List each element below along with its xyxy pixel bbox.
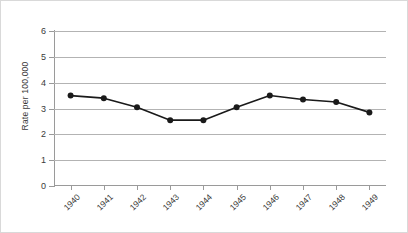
x-tick-label: 1944 bbox=[194, 192, 214, 212]
x-tick-mark bbox=[303, 186, 304, 190]
x-tick-mark bbox=[270, 186, 271, 190]
data-point bbox=[366, 109, 372, 115]
x-tick-label: 1945 bbox=[227, 192, 247, 212]
data-point bbox=[267, 93, 273, 99]
x-tick-label: 1946 bbox=[260, 192, 280, 212]
data-point bbox=[101, 95, 107, 101]
x-tick-mark bbox=[71, 186, 72, 190]
y-axis-title-text: Rate per 100,000 bbox=[20, 62, 30, 131]
data-point bbox=[200, 117, 206, 123]
x-tick-mark bbox=[336, 186, 337, 190]
x-tick-label: 1948 bbox=[327, 192, 347, 212]
x-tick-label: 1949 bbox=[360, 192, 380, 212]
x-tick-label: 1943 bbox=[161, 192, 181, 212]
y-tick-label: 3 bbox=[41, 104, 46, 114]
data-series bbox=[54, 31, 386, 186]
x-tick-label: 1941 bbox=[94, 192, 114, 212]
x-tick-mark bbox=[203, 186, 204, 190]
data-point bbox=[234, 104, 240, 110]
y-tick-label: 5 bbox=[41, 52, 46, 62]
series-line bbox=[71, 96, 370, 121]
line-chart-figure: Rate per 100,000 0123456 194019411942194… bbox=[0, 0, 408, 233]
y-tick-label: 6 bbox=[41, 26, 46, 36]
plot-area: 0123456 19401941194219431944194519461947… bbox=[54, 31, 386, 186]
y-tick-label: 1 bbox=[41, 155, 46, 165]
x-tick-mark bbox=[137, 186, 138, 190]
data-point bbox=[167, 117, 173, 123]
data-point bbox=[134, 104, 140, 110]
x-tick-label: 1942 bbox=[128, 192, 148, 212]
x-tick-mark bbox=[170, 186, 171, 190]
y-tick-label: 2 bbox=[41, 129, 46, 139]
y-tick-mark bbox=[49, 186, 54, 187]
x-tick-mark bbox=[104, 186, 105, 190]
data-point bbox=[300, 96, 306, 102]
x-tick-mark bbox=[369, 186, 370, 190]
y-tick-label: 0 bbox=[41, 181, 46, 191]
x-tick-label: 1940 bbox=[61, 192, 81, 212]
x-tick-label: 1947 bbox=[294, 192, 314, 212]
data-point bbox=[333, 99, 339, 105]
data-point bbox=[68, 93, 74, 99]
x-tick-mark bbox=[237, 186, 238, 190]
y-tick-label: 4 bbox=[41, 78, 46, 88]
y-axis-title: Rate per 100,000 bbox=[13, 1, 37, 191]
